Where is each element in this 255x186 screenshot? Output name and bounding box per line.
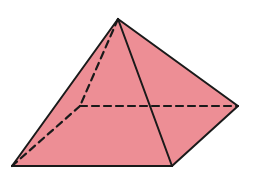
pyramid-diagram xyxy=(0,0,255,186)
square-pyramid-figure xyxy=(0,0,255,186)
pyramid-body xyxy=(12,19,238,166)
